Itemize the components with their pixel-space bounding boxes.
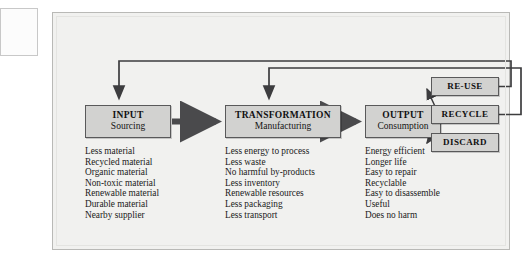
stage-transformation-subheading: Manufacturing <box>226 121 340 132</box>
list-item: Does no harm <box>365 210 440 221</box>
figure-panel: INPUT Sourcing TRANSFORMATION Manufactur… <box>52 12 510 250</box>
stage-box-input[interactable]: INPUT Sourcing <box>85 105 171 138</box>
list-item: Easy to disassemble <box>365 188 440 199</box>
list-item: Nearby supplier <box>85 210 159 221</box>
list-item: Non-toxic material <box>85 178 159 189</box>
list-item: Renewable material <box>85 188 159 199</box>
stage-input-subheading: Sourcing <box>86 121 170 132</box>
stage-transformation-heading: TRANSFORMATION <box>226 110 340 121</box>
stage-output-heading: OUTPUT <box>366 110 440 121</box>
list-item: No harmful by-products <box>225 167 315 178</box>
stage-input-attribute-list: Less material Recycled material Organic … <box>85 146 159 220</box>
list-item: Organic material <box>85 167 159 178</box>
stage-box-transformation[interactable]: TRANSFORMATION Manufacturing <box>225 105 341 138</box>
list-item: Recycled material <box>85 157 159 168</box>
list-item: Less inventory <box>225 178 315 189</box>
list-item: Energy efficient <box>365 146 440 157</box>
endpoint-box-discard[interactable]: DISCARD <box>431 133 499 152</box>
lifecycle-diagram: INPUT Sourcing TRANSFORMATION Manufactur… <box>53 13 511 251</box>
left-blank-panel <box>0 8 38 56</box>
list-item: Less packaging <box>225 199 315 210</box>
list-item: Renewable resources <box>225 188 315 199</box>
list-item: Easy to repair <box>365 167 440 178</box>
stage-box-output[interactable]: OUTPUT Consumption <box>365 105 441 138</box>
list-item: Less energy to process <box>225 146 315 157</box>
list-item: Useful <box>365 199 440 210</box>
endpoint-box-recycle[interactable]: RECYCLE <box>431 105 499 124</box>
list-item: Longer life <box>365 157 440 168</box>
list-item: Less material <box>85 146 159 157</box>
list-item: Durable material <box>85 199 159 210</box>
stage-output-subheading: Consumption <box>366 121 440 132</box>
stage-input-heading: INPUT <box>86 110 170 121</box>
stage-transformation-attribute-list: Less energy to process Less waste No har… <box>225 146 315 220</box>
list-item: Less waste <box>225 157 315 168</box>
stage-output-attribute-list: Energy efficient Longer life Easy to rep… <box>365 146 440 220</box>
list-item: Recyclable <box>365 178 440 189</box>
list-item: Less transport <box>225 210 315 221</box>
screenshot-root: INPUT Sourcing TRANSFORMATION Manufactur… <box>0 0 530 273</box>
endpoint-box-reuse[interactable]: RE-USE <box>431 77 499 96</box>
